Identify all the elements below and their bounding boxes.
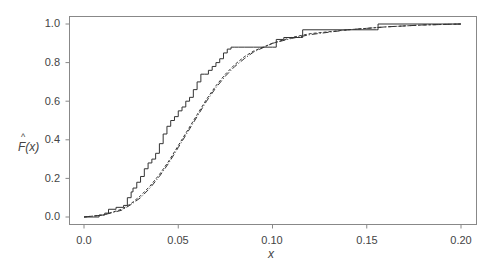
empirical-cdf-line — [84, 24, 461, 217]
x-tick-label: 0.0 — [64, 234, 104, 246]
x-tick-label: 0.15 — [347, 234, 387, 246]
axis-ticks — [66, 24, 462, 229]
y-axis-label-hat: ^ — [21, 132, 25, 142]
x-tick-label: 0.10 — [252, 234, 292, 246]
y-tick-label: 0.2 — [34, 172, 60, 184]
y-tick-label: 0.4 — [34, 133, 60, 145]
y-tick-label: 0.8 — [34, 56, 60, 68]
x-tick-label: 0.05 — [158, 234, 198, 246]
y-tick-label: 1.0 — [34, 17, 60, 29]
plot-frame — [70, 17, 477, 225]
x-tick-label: 0.20 — [441, 234, 481, 246]
x-axis-label: x — [268, 247, 274, 261]
y-tick-label: 0.0 — [34, 210, 60, 222]
series-lines — [84, 24, 461, 217]
cdf-chart — [0, 0, 493, 273]
y-tick-label: 0.6 — [34, 95, 60, 107]
fitted-cdf-1-line — [84, 24, 461, 217]
fitted-cdf-2-line — [84, 24, 461, 217]
